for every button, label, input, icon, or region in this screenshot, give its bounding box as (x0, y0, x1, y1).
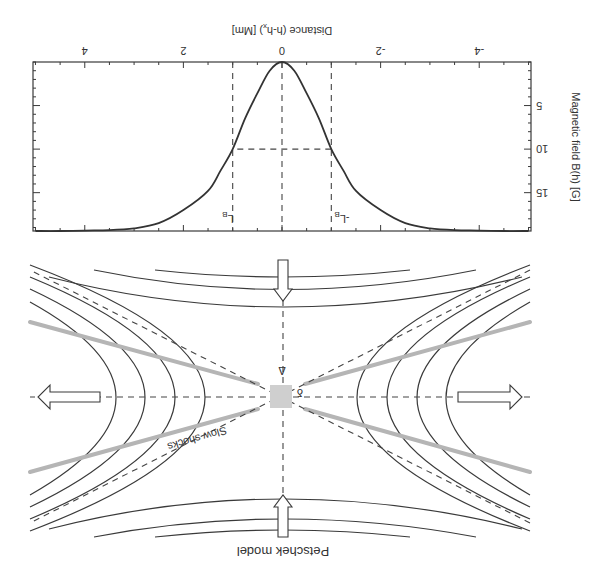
y-tick-label: 15 (536, 187, 548, 199)
petschek-diagram: Petschek model (30, 260, 530, 559)
figure-svg: Petschek model (0, 0, 594, 567)
lb-negative-text: -L (340, 213, 350, 225)
lb-negative-label: -LB (334, 210, 349, 225)
slow-shock-line (305, 409, 530, 472)
x-tick-label: -4 (474, 45, 484, 57)
slow-shock-line (30, 409, 258, 472)
x-axis-label: Distance (h-hx) [Mm] (232, 22, 333, 37)
delta-lower-label: δ (297, 387, 303, 399)
slow-shock-line (30, 322, 258, 384)
lb-positive-label: LB (222, 210, 233, 225)
y-axis-label: Magnetic field B(h) [G] (570, 92, 582, 201)
reference-lines (233, 62, 332, 231)
outflow-arrow-right (38, 385, 100, 409)
inflow-arrow-bottom (274, 260, 292, 301)
y-tick-label: 10 (536, 143, 548, 155)
delta-upper-label: Δ (278, 365, 286, 377)
inflow-arrow-top (274, 495, 292, 537)
slow-shocks-label: Slow shocks (166, 425, 229, 454)
lb-positive-text: L (228, 213, 234, 225)
x-tick-label: 2 (180, 45, 186, 57)
magnetic-field-plot: -4-2024 51015 -LB LB Distance (h-hx) [Mm… (33, 22, 582, 231)
slow-shock-line (305, 322, 530, 384)
diffusion-region (270, 385, 292, 408)
diagram-title: Petschek model (237, 544, 330, 559)
outflow-arrow-left (458, 385, 522, 409)
y-tick-label: 5 (536, 100, 542, 112)
x-tick-label: -2 (376, 45, 386, 57)
x-tick-label: 4 (82, 45, 88, 57)
x-tick-label: 0 (279, 45, 285, 57)
x-axis-label-sub: x (263, 22, 267, 31)
x-axis-label-main: Distance (h-h (267, 25, 332, 37)
lb-negative-sub: B (334, 210, 339, 219)
y-axis-ticks: 51015 (33, 62, 548, 228)
x-axis-ticks: -4-2024 (35, 45, 528, 231)
figure: Petschek model (0, 0, 594, 567)
lb-positive-sub: B (222, 210, 227, 219)
x-axis-label-tail: ) [Mm] (232, 25, 263, 37)
